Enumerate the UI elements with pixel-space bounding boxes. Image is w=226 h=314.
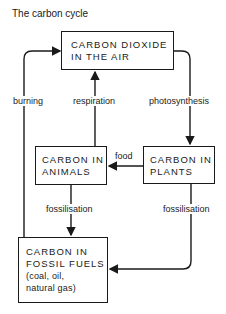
edge-label-photosynthesis: photosynthesis (149, 96, 209, 106)
node-line: CARBON IN (42, 154, 106, 166)
edge-label-burning: burning (13, 96, 43, 106)
node-carbon-animals: CARBON IN ANIMALS (35, 146, 107, 185)
edge-label-fossilisation-animals: fossilisation (46, 204, 93, 214)
edge-label-food: food (115, 151, 133, 161)
node-line: natural gas) (26, 282, 107, 294)
node-line: CARBON IN (150, 154, 214, 166)
node-carbon-dioxide-air: CARBON DIOXIDE IN THE AIR (61, 31, 174, 70)
edge-label-respiration: respiration (73, 96, 115, 106)
node-carbon-fossil-fuels: CARBON IN FOSSIL FUELS (coal, oil, natur… (18, 237, 108, 303)
node-carbon-plants: CARBON IN PLANTS (143, 146, 215, 184)
node-line: FOSSIL FUELS (26, 258, 107, 270)
node-line: PLANTS (150, 166, 214, 178)
node-line: CARBON DIOXIDE (71, 39, 173, 51)
node-line: ANIMALS (42, 166, 106, 178)
node-line: CARBON IN (26, 246, 107, 258)
node-line: IN THE AIR (71, 51, 173, 63)
node-line: (coal, oil, (26, 270, 107, 282)
edge-label-fossilisation-plants: fossilisation (163, 204, 210, 214)
